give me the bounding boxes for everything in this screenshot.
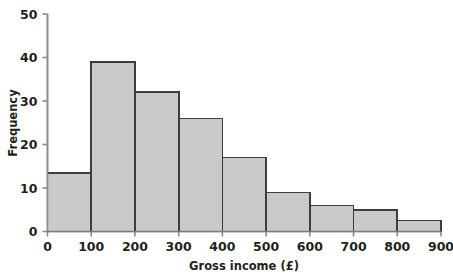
histogram-figure: 01020304050 0100200300400500600700800900… — [0, 0, 453, 276]
histogram-bar — [222, 158, 266, 232]
x-tick-label: 100 — [78, 239, 104, 254]
y-tick-label: 40 — [20, 50, 38, 65]
y-tick-label: 50 — [20, 7, 38, 22]
x-tick-label: 700 — [341, 239, 367, 254]
y-tick-label: 0 — [29, 224, 38, 239]
x-tick-label: 0 — [43, 239, 52, 254]
histogram-bar — [310, 205, 354, 231]
x-axis-title: Gross income (£) — [189, 259, 299, 273]
x-tick-label: 600 — [297, 239, 323, 254]
histogram-bar — [91, 62, 135, 232]
x-tick-label: 900 — [428, 239, 453, 254]
y-tick-label: 30 — [20, 94, 38, 109]
x-tick-label: 400 — [209, 239, 235, 254]
chart-background — [0, 0, 453, 276]
histogram-bar — [179, 118, 223, 231]
histogram-bar — [135, 92, 179, 231]
histogram-chart: 01020304050 0100200300400500600700800900… — [0, 0, 453, 276]
histogram-bar — [266, 192, 310, 231]
x-tick-label: 800 — [384, 239, 410, 254]
histogram-bar — [397, 221, 441, 232]
y-tick-label: 10 — [20, 181, 38, 196]
x-tick-label: 200 — [122, 239, 148, 254]
y-tick-label: 20 — [20, 137, 38, 152]
histogram-bar — [354, 210, 398, 232]
x-tick-label: 300 — [166, 239, 192, 254]
y-axis-title: Frequency — [6, 89, 20, 157]
x-tick-label: 500 — [253, 239, 279, 254]
histogram-bar — [48, 173, 92, 232]
